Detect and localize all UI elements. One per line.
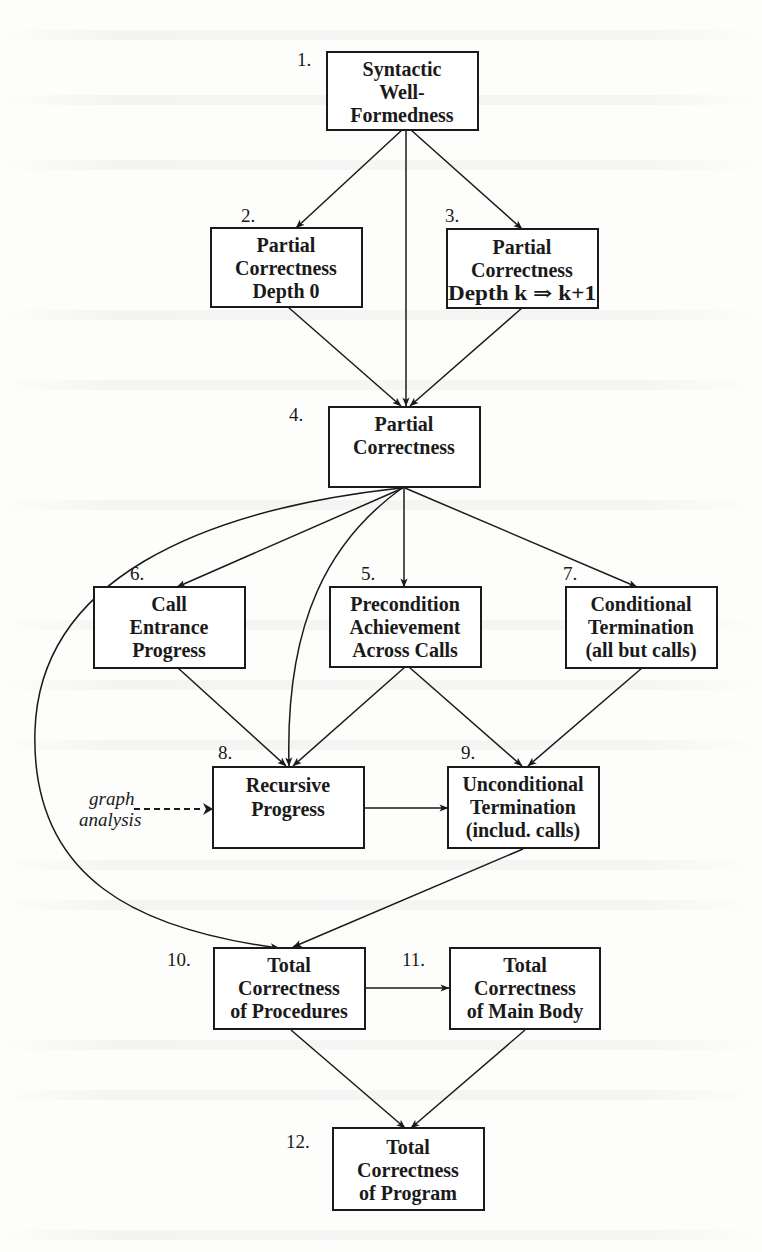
node-label-line: Call <box>151 593 187 615</box>
node-9-unconditional-termination[interactable]: 9. Unconditional Termination (includ. ca… <box>448 742 599 848</box>
node-label-line: Depth 0 <box>252 280 319 303</box>
node-number: 1. <box>297 49 311 70</box>
edge-2-to-4 <box>288 307 401 406</box>
flowchart: 1. Syntactic Well- Formedness 2. Partial… <box>0 0 762 1252</box>
node-label-line: (includ. calls) <box>466 819 580 842</box>
node-label-line: of Program <box>359 1182 457 1205</box>
node-label-line: Correctness <box>235 257 337 279</box>
node-number: 3. <box>445 205 459 226</box>
node-1-syntactic-well-formedness[interactable]: 1. Syntactic Well- Formedness <box>297 49 478 130</box>
node-label-line: Syntactic <box>363 58 442 81</box>
node-4-partial-correctness[interactable]: 4. Partial Correctness <box>289 404 480 487</box>
node-label-line: Correctness <box>474 977 576 999</box>
node-5-precondition-achievement[interactable]: 5. Precondition Achievement Across Calls <box>330 563 481 667</box>
node-label-line: Unconditional <box>462 773 584 795</box>
node-number: 11. <box>402 949 425 970</box>
node-label-line: Partial <box>493 236 552 258</box>
node-number: 8. <box>218 742 232 763</box>
node-label-line: Correctness <box>238 977 340 999</box>
edge-3-to-4 <box>410 308 522 406</box>
node-label-line: of Procedures <box>230 1000 348 1022</box>
edge-1-to-3 <box>411 130 522 229</box>
node-label-line: Well- <box>379 81 425 103</box>
node-label-line: Total <box>267 954 311 976</box>
edge-5-to-8 <box>293 667 405 766</box>
node-10-total-correctness-procedures[interactable]: 10. Total Correctness of Procedures <box>167 948 365 1029</box>
node-number: 9. <box>461 742 475 763</box>
node-number: 10. <box>167 949 191 970</box>
graph-analysis-line: analysis <box>79 809 141 830</box>
edge-11-to-12 <box>411 1030 525 1128</box>
node-label-line: Formedness <box>350 104 454 126</box>
arrowhead-icon <box>203 803 213 815</box>
node-label-line: Correctness <box>357 1159 459 1181</box>
node-label-line: Termination <box>588 616 694 638</box>
node-label-line: Across Calls <box>352 639 458 661</box>
edge-4-to-10-curved <box>35 488 401 948</box>
node-number: 2. <box>241 205 255 226</box>
node-number: 4. <box>289 404 303 425</box>
node-12-total-correctness-program[interactable]: 12. Total Correctness of Program <box>286 1128 484 1210</box>
graph-analysis-line: graph <box>89 788 134 809</box>
node-label-line: Recursive <box>246 774 331 796</box>
node-label-line: Termination <box>470 796 576 818</box>
edge-10-to-12 <box>291 1030 405 1128</box>
node-label-line: Correctness <box>471 259 573 281</box>
node-label-line: Precondition <box>350 593 460 615</box>
node-label-line: Achievement <box>349 616 460 638</box>
node-label-line: Total <box>386 1136 430 1158</box>
node-label-line: (all but calls) <box>585 639 696 662</box>
node-label-line: Correctness <box>353 436 455 458</box>
node-label-line: Conditional <box>590 593 692 615</box>
graph-analysis-label: graph analysis <box>79 788 141 830</box>
node-label-line: Progress <box>251 798 325 821</box>
node-7-conditional-termination[interactable]: 7. Conditional Termination (all but call… <box>563 563 717 668</box>
edge-9-to-10 <box>293 849 523 947</box>
node-label-line: Depth k ⇒ k+1 <box>448 282 596 305</box>
node-label-line: Total <box>503 954 547 976</box>
node-2-partial-correctness-depth-0[interactable]: 2. Partial Correctness Depth 0 <box>211 205 362 307</box>
edge-1-to-2 <box>296 130 402 228</box>
node-label-line: Partial <box>257 234 316 256</box>
node-label-line: Entrance <box>130 616 209 638</box>
edge-4-to-7 <box>405 488 637 587</box>
node-number: 6. <box>130 563 144 584</box>
node-3-partial-correctness-depth-k[interactable]: 3. Partial Correctness Depth k ⇒ k+1 <box>445 205 598 308</box>
node-label-line: of Main Body <box>467 1000 584 1023</box>
edge-7-to-9 <box>528 668 642 766</box>
node-number: 12. <box>286 1131 310 1152</box>
node-number: 5. <box>361 563 375 584</box>
node-label-line: Partial <box>375 413 434 435</box>
node-label-line: Progress <box>132 639 206 662</box>
node-number: 7. <box>563 563 577 584</box>
